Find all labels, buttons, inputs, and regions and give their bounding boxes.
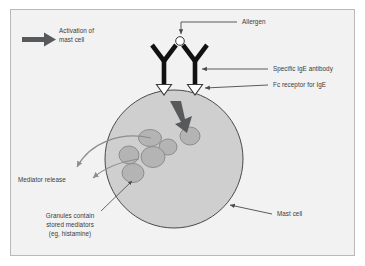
- thick-right-arrow-icon: [22, 33, 56, 47]
- label-granules-line2: stored mediators: [24, 221, 116, 230]
- leader-fc-receptor: [205, 85, 268, 88]
- legend-label-line1: Activation of: [59, 27, 94, 36]
- label-mast-cell: Mast cell: [277, 210, 302, 219]
- label-granules-line1: Granules contain: [24, 212, 116, 221]
- granule: [122, 164, 144, 183]
- ige-antibody-right: [183, 45, 207, 88]
- label-granules-line3: (eg, histamine): [24, 230, 116, 239]
- allergen-particle: [176, 37, 185, 46]
- label-fc-receptor: Fc receptor for IgE: [273, 81, 326, 90]
- granule: [141, 147, 165, 168]
- figure-container: Activation of mast cell Allergen Specifi…: [0, 0, 365, 266]
- leader-mast-cell: [230, 205, 272, 214]
- ige-antibody-left: [152, 45, 176, 88]
- label-allergen: Allergen: [242, 18, 266, 27]
- legend-label-line2: mast cell: [59, 36, 84, 45]
- label-ige-antibody: Specific IgE antibody: [273, 65, 333, 74]
- label-mediator-release: Mediator release: [18, 176, 66, 185]
- leader-allergen: [181, 22, 237, 34]
